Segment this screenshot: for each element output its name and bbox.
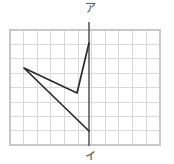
label-i-bottom: イ xyxy=(85,150,96,163)
grid-figure-svg: ア イ xyxy=(0,0,174,164)
figure-container: ア イ xyxy=(0,0,174,164)
label-a-top: ア xyxy=(85,2,96,15)
arrow-polyline xyxy=(24,43,89,131)
